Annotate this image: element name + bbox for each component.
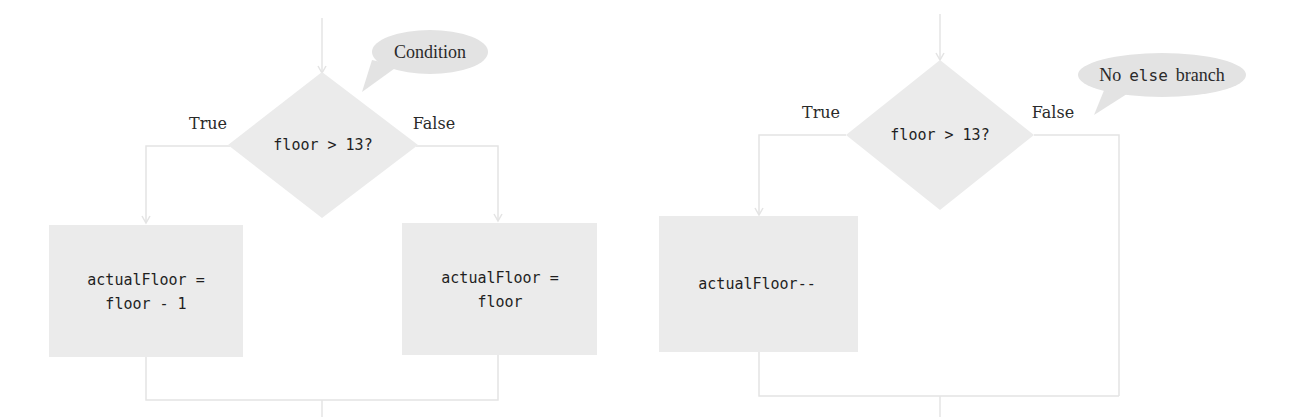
flowchart-figure: floor > 13? True False Condition actualF… bbox=[0, 0, 1307, 417]
left-false-action-line1: actualFloor = bbox=[441, 269, 558, 287]
right-true-label: True bbox=[802, 103, 840, 122]
flowchart-canvas: floor > 13? True False Condition actualF… bbox=[0, 0, 1307, 417]
right-flowchart: floor > 13? True False No else branch ac… bbox=[659, 14, 1246, 417]
left-false-action-box bbox=[402, 223, 597, 355]
right-callout-text: No else branch bbox=[1099, 65, 1225, 85]
left-condition-callout: Condition bbox=[362, 30, 488, 92]
left-true-label: True bbox=[189, 114, 227, 133]
left-flowchart: floor > 13? True False Condition actualF… bbox=[49, 18, 597, 417]
right-true-action-line1: actualFloor-- bbox=[698, 275, 815, 293]
right-true-connector bbox=[759, 135, 846, 214]
left-true-connector bbox=[146, 146, 230, 222]
left-true-action-box bbox=[49, 225, 243, 357]
left-callout-text: Condition bbox=[394, 42, 466, 62]
right-callout-prefix: No bbox=[1099, 65, 1121, 85]
right-merge-connector bbox=[759, 352, 1119, 396]
right-no-else-callout: No else branch bbox=[1078, 53, 1246, 115]
right-false-connector bbox=[1034, 135, 1119, 396]
left-merge-connector bbox=[146, 355, 498, 400]
right-callout-suffix: branch bbox=[1176, 65, 1225, 85]
right-condition-text: floor > 13? bbox=[890, 126, 989, 144]
left-true-action-line2: floor - 1 bbox=[105, 295, 186, 313]
left-condition-text: floor > 13? bbox=[273, 136, 372, 154]
left-false-action-line2: floor bbox=[477, 293, 522, 311]
right-false-label: False bbox=[1032, 103, 1074, 122]
right-callout-code: else bbox=[1129, 66, 1168, 85]
left-false-label: False bbox=[413, 114, 455, 133]
left-false-connector bbox=[416, 146, 498, 220]
left-true-action-line1: actualFloor = bbox=[87, 271, 204, 289]
